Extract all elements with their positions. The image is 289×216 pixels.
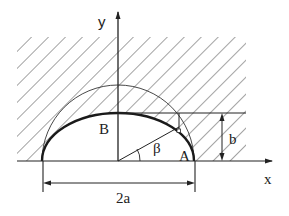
height-dim-label: b [229,131,237,147]
width-dim-label: 2a [116,190,131,206]
point-marker [177,129,181,133]
hatched-region [17,37,246,161]
point-b-label: B [99,121,109,137]
ellipse-diagram: y x B β A b 2a [0,0,289,216]
angle-label: β [153,140,161,156]
x-axis-label: x [264,171,272,187]
y-axis-label: y [98,13,106,30]
point-a-label: A [179,148,190,164]
